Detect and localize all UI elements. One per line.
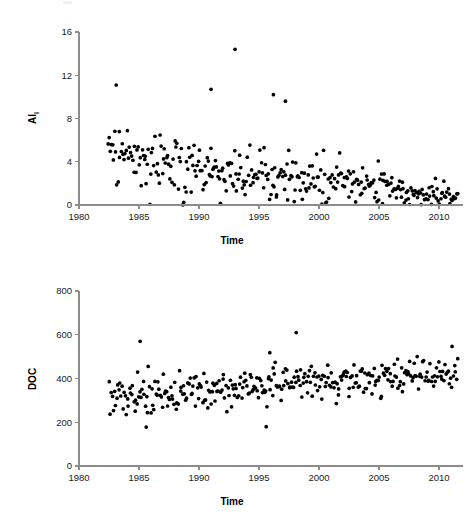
data-point bbox=[117, 130, 121, 134]
data-point bbox=[354, 200, 358, 204]
data-point bbox=[444, 195, 448, 199]
data-point bbox=[365, 174, 369, 178]
data-point bbox=[109, 391, 113, 395]
data-point bbox=[337, 387, 341, 391]
data-point bbox=[229, 378, 233, 382]
data-point bbox=[206, 159, 210, 163]
data-point bbox=[145, 162, 149, 166]
panel-ali: 0481216 1980198519901995200020052010 Ali… bbox=[0, 0, 475, 266]
data-point bbox=[388, 194, 392, 198]
data-point bbox=[410, 379, 414, 383]
data-point bbox=[130, 384, 134, 388]
data-point bbox=[307, 186, 311, 190]
data-point bbox=[441, 370, 445, 374]
data-point bbox=[290, 175, 294, 179]
data-point bbox=[174, 407, 178, 411]
data-point bbox=[159, 144, 163, 148]
data-point bbox=[142, 392, 146, 396]
data-point bbox=[111, 394, 115, 398]
data-point bbox=[456, 357, 460, 361]
figure-root: 0481216 1980198519901995200020052010 Ali… bbox=[0, 0, 475, 532]
data-point bbox=[401, 180, 405, 184]
data-point bbox=[191, 384, 195, 388]
data-point bbox=[158, 181, 162, 185]
data-point bbox=[209, 402, 213, 406]
data-point bbox=[248, 143, 252, 147]
data-point bbox=[245, 384, 249, 388]
data-point bbox=[275, 193, 279, 197]
y-tick-label: 12 bbox=[61, 70, 72, 81]
data-point bbox=[187, 382, 191, 386]
data-point bbox=[335, 165, 339, 169]
x-tick-label: 2000 bbox=[308, 211, 329, 222]
data-point bbox=[308, 380, 312, 384]
data-point bbox=[311, 176, 315, 180]
data-point bbox=[305, 380, 309, 384]
data-point bbox=[113, 389, 117, 393]
data-point bbox=[124, 394, 128, 398]
data-point bbox=[416, 196, 420, 200]
data-point bbox=[127, 156, 131, 160]
data-point bbox=[317, 374, 321, 378]
data-point bbox=[264, 163, 268, 167]
data-point bbox=[166, 404, 170, 408]
data-point bbox=[428, 362, 432, 366]
data-point bbox=[244, 180, 248, 184]
data-point bbox=[393, 362, 397, 366]
data-point bbox=[294, 161, 298, 165]
data-point bbox=[163, 161, 167, 165]
data-point bbox=[114, 404, 118, 408]
data-point bbox=[265, 405, 269, 409]
data-point bbox=[412, 193, 416, 197]
data-point bbox=[373, 383, 377, 387]
data-point bbox=[273, 166, 277, 170]
data-point bbox=[236, 177, 240, 181]
data-point bbox=[197, 397, 201, 401]
data-point bbox=[389, 181, 393, 185]
data-point bbox=[188, 376, 192, 380]
data-point bbox=[272, 93, 276, 97]
data-point bbox=[285, 368, 289, 372]
data-point bbox=[209, 87, 213, 91]
data-point bbox=[143, 154, 147, 158]
data-point bbox=[371, 374, 375, 378]
y-axis-title-ali-main: Al bbox=[27, 114, 38, 124]
data-point bbox=[453, 364, 457, 368]
data-point bbox=[245, 155, 249, 159]
data-point bbox=[228, 174, 232, 178]
data-point bbox=[432, 384, 436, 388]
plot-points-doc bbox=[107, 331, 459, 429]
data-point bbox=[227, 386, 231, 390]
data-point bbox=[142, 380, 146, 384]
data-point bbox=[194, 404, 198, 408]
x-tick-label: 1980 bbox=[68, 472, 89, 483]
data-point bbox=[259, 379, 263, 383]
data-point bbox=[247, 173, 251, 177]
data-point bbox=[309, 182, 313, 186]
data-point bbox=[156, 380, 160, 384]
data-point bbox=[168, 398, 172, 402]
data-point bbox=[448, 192, 452, 196]
data-point bbox=[118, 156, 122, 160]
data-point bbox=[318, 385, 322, 389]
data-point bbox=[162, 157, 166, 161]
data-point bbox=[395, 375, 399, 379]
data-point bbox=[239, 166, 243, 170]
y-tick-label: 800 bbox=[56, 285, 72, 296]
data-point bbox=[151, 147, 155, 151]
y-tick-label: 400 bbox=[56, 373, 72, 384]
data-point bbox=[251, 181, 255, 185]
x-tick-label: 1995 bbox=[248, 472, 269, 483]
data-point bbox=[161, 172, 165, 176]
data-point bbox=[315, 152, 319, 156]
data-point bbox=[233, 47, 237, 51]
y-axis-title-ali: Ali bbox=[27, 112, 40, 124]
data-point bbox=[108, 149, 112, 153]
data-point bbox=[388, 372, 392, 376]
x-axis-title-ali: Time bbox=[220, 235, 244, 246]
data-point bbox=[439, 197, 443, 201]
data-point bbox=[447, 369, 451, 373]
data-point bbox=[363, 186, 367, 190]
data-point bbox=[435, 187, 439, 191]
data-point bbox=[117, 388, 121, 392]
